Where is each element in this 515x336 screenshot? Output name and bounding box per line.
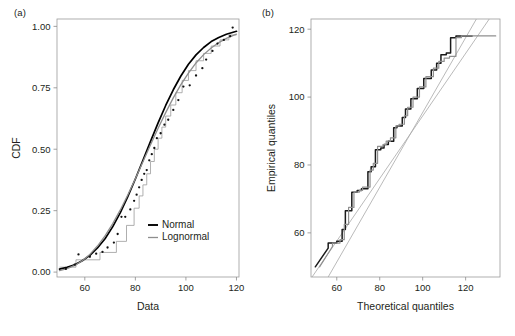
- x-tick-label: 80: [130, 282, 141, 293]
- y-tick-label: 120: [289, 24, 305, 35]
- data-point: [124, 216, 126, 218]
- plot-frame: [311, 19, 500, 277]
- data-point: [153, 147, 155, 149]
- y-tick-label: 0.25: [32, 205, 51, 216]
- legend-label-normal: Normal: [162, 219, 194, 230]
- data-point: [151, 153, 153, 155]
- data-point: [133, 200, 135, 202]
- data-point: [141, 179, 143, 181]
- panel-b-qq-plot: (b) 60801001206080100120Theoretical quan…: [257, 0, 514, 336]
- data-point: [89, 256, 91, 258]
- data-point: [143, 173, 145, 175]
- data-point: [106, 246, 108, 248]
- y-axis-title: Empirical quantiles: [265, 104, 277, 192]
- data-point: [216, 42, 218, 44]
- data-point: [95, 253, 97, 255]
- data-point: [146, 169, 148, 171]
- y-tick-label: 0.75: [32, 82, 51, 93]
- data-point: [223, 39, 225, 41]
- panel-a-svg: 60801001200.000.250.500.751.00DataCDFNor…: [0, 0, 257, 336]
- data-point: [113, 241, 115, 243]
- data-point: [182, 85, 184, 87]
- y-tick-label: 1.00: [32, 21, 51, 32]
- data-point: [120, 216, 122, 218]
- data-point: [138, 186, 140, 188]
- data-point: [159, 132, 161, 134]
- figure-container: (a) 60801001200.000.250.500.751.00DataCD…: [0, 0, 515, 336]
- data-point: [201, 67, 203, 69]
- panel-b-svg: 60801001206080100120Theoretical quantile…: [257, 0, 515, 336]
- data-point: [232, 26, 234, 28]
- x-tick-label: 80: [374, 282, 385, 293]
- data-point: [167, 119, 169, 121]
- x-tick-label: 100: [178, 282, 194, 293]
- y-tick-label: 0.50: [32, 144, 51, 155]
- x-tick-label: 100: [415, 282, 431, 293]
- data-point: [74, 264, 76, 266]
- y-tick-label: 80: [294, 159, 305, 170]
- x-tick-label: 60: [80, 282, 91, 293]
- x-tick-label: 120: [458, 282, 474, 293]
- data-point: [135, 194, 137, 196]
- data-point: [156, 137, 158, 139]
- data-point: [117, 233, 119, 235]
- x-axis-title: Data: [137, 300, 159, 312]
- y-axis-title: CDF: [10, 137, 22, 159]
- panel-a-label: (a): [14, 7, 26, 18]
- data-point: [101, 251, 103, 253]
- data-point: [211, 50, 213, 52]
- data-point: [195, 74, 197, 76]
- data-point: [189, 84, 191, 86]
- data-point: [177, 99, 179, 101]
- data-point: [205, 58, 207, 60]
- data-point: [229, 35, 231, 37]
- data-point: [163, 124, 165, 126]
- legend-label-lognormal: Lognormal: [162, 231, 209, 242]
- y-tick-label: 60: [294, 227, 305, 238]
- panel-a-cdf-plot: (a) 60801001200.000.250.500.751.00DataCD…: [0, 0, 257, 336]
- data-point: [129, 208, 131, 210]
- x-tick-label: 60: [331, 282, 342, 293]
- data-point: [65, 268, 67, 270]
- y-tick-label: 100: [289, 91, 305, 102]
- panel-b-label: (b): [262, 7, 274, 18]
- x-axis-title: Theoretical quantiles: [357, 300, 454, 312]
- x-tick-label: 120: [229, 282, 245, 293]
- y-tick-label: 0.00: [32, 266, 51, 277]
- data-point: [77, 253, 79, 255]
- data-point: [148, 159, 150, 161]
- data-point: [172, 109, 174, 111]
